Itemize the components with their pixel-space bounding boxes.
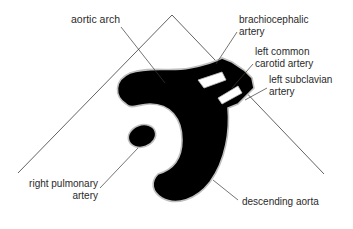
label-left-common-carotid-line2: carotid artery: [255, 58, 313, 69]
label-left-subclavian-line1: left subclavian: [269, 74, 332, 85]
label-left-common-carotid-line1: left common: [255, 46, 309, 57]
aortic-arch-diagram: [0, 0, 353, 229]
leader-right-pulmonary: [100, 148, 138, 188]
label-descending-aorta: descending aorta: [242, 196, 319, 207]
label-right-pulmonary-line2: artery: [72, 190, 98, 201]
right-pulmonary-artery-shape: [125, 121, 159, 151]
label-aortic-arch: aortic arch: [71, 14, 120, 25]
label-left-subclavian-line2: artery: [269, 86, 295, 97]
label-brachiocephalic-line2: artery: [239, 26, 265, 37]
label-brachiocephalic-line1: brachiocephalic: [239, 14, 309, 25]
aorta-shape: [117, 58, 254, 201]
leader-descending-aorta: [213, 180, 238, 200]
label-right-pulmonary-line1: right pulmonary: [29, 178, 98, 189]
